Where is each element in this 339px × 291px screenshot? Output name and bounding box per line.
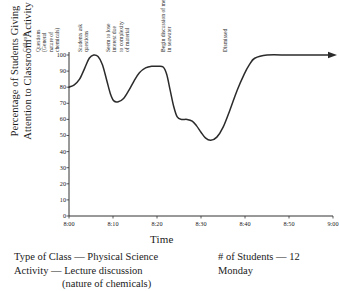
caption-day: Monday bbox=[218, 264, 338, 278]
annotation-line: Students ask bbox=[77, 24, 83, 52]
annotation-line: of material bbox=[124, 21, 130, 52]
annotation-line: Dismissed bbox=[222, 29, 228, 52]
annotation-line: questions bbox=[83, 24, 89, 52]
caption-activity: Activity — Lecture discussion bbox=[14, 264, 204, 278]
annotation-line: in seawater bbox=[167, 0, 173, 52]
annotation-line: chemicals) bbox=[54, 28, 60, 52]
x-axis-title: Time bbox=[150, 233, 174, 245]
x-tick-label: 8:10 bbox=[107, 221, 118, 227]
x-tick-label: 8:30 bbox=[195, 221, 206, 227]
caption-student-count: # of Students — 12 bbox=[218, 250, 338, 264]
chart-annotation: Seem to loseinterest dueto complexityof … bbox=[105, 21, 157, 52]
x-tick-label: 8:00 bbox=[63, 221, 74, 227]
annotation-line: nature of bbox=[48, 28, 54, 52]
caption-left-column: Type of Class — Physical Science Activit… bbox=[14, 250, 204, 291]
x-tick-label: 8:40 bbox=[239, 221, 250, 227]
x-tick-label: 8:50 bbox=[283, 221, 294, 227]
annotation-line: (General bbox=[41, 28, 47, 52]
chart-annotation: Dismissed bbox=[222, 29, 274, 52]
caption-right-column: # of Students — 12 Monday bbox=[218, 250, 338, 277]
annotation-line: Call roll bbox=[22, 34, 28, 53]
x-tick-label: 8:20 bbox=[151, 221, 162, 227]
caption-type-of-class: Type of Class — Physical Science bbox=[14, 250, 204, 264]
chart-annotation: Begin discussion of metalsin seawater bbox=[160, 0, 212, 52]
annotation-line: Questions bbox=[35, 28, 41, 52]
caption-activity-detail: (nature of chemicals) bbox=[14, 277, 204, 291]
x-tick-label: 9:00 bbox=[327, 221, 338, 227]
